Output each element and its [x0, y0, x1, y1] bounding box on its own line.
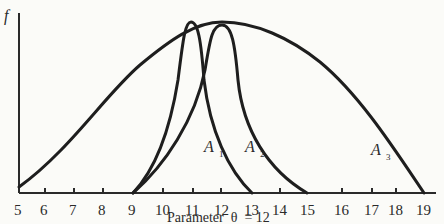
- svg-text:1: 1: [219, 149, 224, 159]
- svg-text:19: 19: [416, 202, 431, 218]
- svg-text:8: 8: [98, 202, 106, 218]
- svg-text:7: 7: [69, 202, 77, 218]
- curve-a3: [19, 22, 424, 193]
- svg-text:9: 9: [128, 202, 136, 218]
- svg-text:3: 3: [386, 152, 391, 162]
- svg-text:A: A: [203, 138, 214, 155]
- y-axis-label: f: [4, 7, 11, 25]
- svg-text:14: 14: [272, 202, 288, 218]
- x-axis-label: Parameter θ = 12: [167, 210, 270, 224]
- svg-text:17: 17: [364, 202, 380, 218]
- svg-text:18: 18: [388, 202, 403, 218]
- svg-text:5: 5: [14, 202, 22, 218]
- svg-text:6: 6: [40, 202, 48, 218]
- svg-text:A: A: [244, 138, 255, 155]
- label-a3: A 3: [370, 141, 391, 162]
- chart: f 5 6 7 8 9 10 11 12 13 14 15 16 17 18 1…: [0, 0, 444, 224]
- svg-text:2: 2: [260, 149, 265, 159]
- svg-text:16: 16: [334, 202, 350, 218]
- svg-text:A: A: [370, 141, 381, 158]
- label-a2: A 2: [244, 138, 265, 159]
- svg-text:15: 15: [300, 202, 315, 218]
